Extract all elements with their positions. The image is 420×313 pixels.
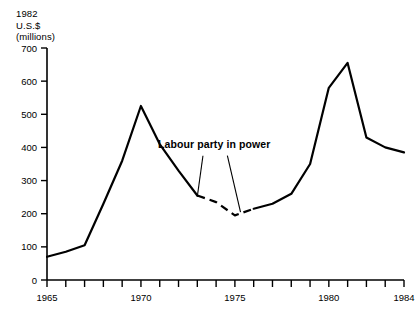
y-axis-ticks: 0100200300400500600700	[21, 43, 47, 286]
data-series-line	[47, 63, 404, 257]
series-segment-dashed	[197, 196, 253, 216]
y-tick-label: 0	[32, 275, 37, 286]
series-segment-solid-early	[47, 106, 197, 257]
y-tick-label: 100	[21, 241, 37, 252]
y-tick-label: 200	[21, 208, 37, 219]
x-tick-label: 1984	[393, 292, 414, 303]
annotation-leader-lines	[197, 156, 240, 212]
series-segment-solid-late	[254, 63, 404, 209]
chart-axes	[47, 48, 404, 280]
y-tick-label: 700	[21, 43, 37, 54]
x-axis-ticks: 19651970197519801984	[36, 280, 414, 303]
chart-container: 1982 U.S.$ (millions) Labour party in po…	[0, 0, 420, 313]
x-tick-label: 1970	[130, 292, 151, 303]
x-tick-label: 1975	[224, 292, 245, 303]
chart-svg: 0100200300400500600700 19651970197519801…	[0, 0, 420, 313]
leader-line	[197, 156, 203, 197]
y-tick-label: 500	[21, 109, 37, 120]
y-tick-label: 400	[21, 142, 37, 153]
y-tick-label: 300	[21, 175, 37, 186]
x-tick-label: 1980	[318, 292, 339, 303]
x-tick-label: 1965	[36, 292, 57, 303]
y-tick-label: 600	[21, 76, 37, 87]
leader-line	[227, 156, 240, 212]
